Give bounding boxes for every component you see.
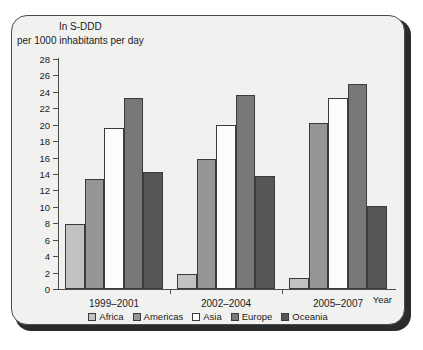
bar-asia-2005–2007 <box>328 98 348 289</box>
legend-item-label: Europe <box>242 311 273 322</box>
y-tick-label: 18 <box>39 136 50 147</box>
bar-oceania-2002–2004 <box>255 176 275 289</box>
bar-africa-2002–2004 <box>177 274 197 289</box>
legend-item-europe[interactable]: Europe <box>231 311 273 322</box>
y-tick-label: 8 <box>45 218 50 229</box>
bar-americas-2002–2004 <box>197 159 217 289</box>
y-tick-mark <box>53 240 58 241</box>
x-group-label-1: 1999–2001 <box>89 298 139 309</box>
bar-europe-2005–2007 <box>348 84 368 289</box>
y-tick-mark <box>53 273 58 274</box>
legend-swatch-icon <box>133 313 141 321</box>
legend-item-africa[interactable]: Africa <box>88 311 123 322</box>
y-tick-label: 16 <box>39 152 50 163</box>
legend-item-oceania[interactable]: Oceania <box>281 311 327 322</box>
y-tick-mark <box>53 207 58 208</box>
y-tick-label: 6 <box>45 234 50 245</box>
bar-americas-2005–2007 <box>309 123 329 289</box>
chart-frame: In S-DDD per 1000 inhabitants per day 28… <box>11 15 405 325</box>
y-tick-mark <box>53 59 58 60</box>
y-tick-label: 0 <box>45 284 50 295</box>
y-tick-label: 24 <box>39 86 50 97</box>
y-tick-label: 14 <box>39 169 50 180</box>
y-tick-mark <box>53 256 58 257</box>
legend-swatch-icon <box>231 313 239 321</box>
chart-figure: In S-DDD per 1000 inhabitants per day 28… <box>0 0 423 350</box>
x-axis-line <box>58 289 396 290</box>
y-tick-mark <box>53 92 58 93</box>
y-tick-mark <box>53 289 58 290</box>
legend-item-label: Americas <box>144 311 184 322</box>
y-tick-mark <box>53 75 58 76</box>
y-tick-mark <box>53 125 58 126</box>
legend-swatch-icon <box>88 313 96 321</box>
y-tick-label: 20 <box>39 119 50 130</box>
chart-subtitle: per 1000 inhabitants per day <box>17 35 144 46</box>
bar-africa-1999–2001 <box>65 224 85 289</box>
x-axis-title: Year <box>373 294 392 305</box>
y-tick-mark <box>53 108 58 109</box>
y-tick-mark <box>53 223 58 224</box>
legend-swatch-icon <box>192 313 200 321</box>
plot-area: 2826242220181614121086420 <box>58 59 394 289</box>
bar-asia-2002–2004 <box>216 125 236 289</box>
y-tick-mark <box>53 158 58 159</box>
bar-africa-2005–2007 <box>289 278 309 289</box>
bar-oceania-2005–2007 <box>367 206 387 289</box>
legend-swatch-icon <box>281 313 289 321</box>
x-group-label-2: 2002–2004 <box>201 298 251 309</box>
y-tick-label: 22 <box>39 103 50 114</box>
y-tick-mark <box>53 174 58 175</box>
bar-europe-1999–2001 <box>124 98 144 289</box>
x-tick-mark <box>170 289 171 294</box>
bar-oceania-1999–2001 <box>143 172 163 289</box>
bar-asia-1999–2001 <box>104 128 124 289</box>
legend-item-label: Africa <box>99 311 123 322</box>
legend-item-label: Asia <box>203 311 221 322</box>
y-tick-mark <box>53 190 58 191</box>
y-tick-label: 4 <box>45 251 50 262</box>
y-tick-label: 10 <box>39 201 50 212</box>
legend-item-americas[interactable]: Americas <box>133 311 184 322</box>
chart-legend: AfricaAmericasAsiaEuropeOceania <box>12 311 404 322</box>
x-tick-mark <box>282 289 283 294</box>
y-tick-mark <box>53 141 58 142</box>
y-tick-label: 26 <box>39 70 50 81</box>
chart-title: In S-DDD <box>59 21 102 32</box>
x-group-label-3: 2005–2007 <box>313 298 363 309</box>
legend-item-label: Oceania <box>292 311 327 322</box>
y-tick-label: 2 <box>45 267 50 278</box>
legend-item-asia[interactable]: Asia <box>192 311 221 322</box>
bar-americas-1999–2001 <box>85 179 105 289</box>
bar-europe-2002–2004 <box>236 95 256 289</box>
y-tick-label: 12 <box>39 185 50 196</box>
y-tick-label: 28 <box>39 54 50 65</box>
